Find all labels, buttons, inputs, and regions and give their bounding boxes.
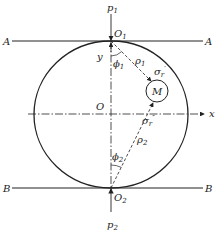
label-y-axis: y [96,51,103,62]
label-phi2: ϕ2 [112,151,124,164]
label-line-b-left: B [2,183,10,194]
label-p1: p1 [107,2,118,15]
label-origin: O [96,101,104,112]
disk-compression-diagram: A A B B O x y M p1 p2 O1 O2 ρ1 ρ2 ϕ1 ϕ2 … [0,0,218,234]
label-sigma-r1: σr′ [154,65,166,79]
label-p2: p2 [107,219,118,232]
label-line-a-right: A [204,36,212,47]
label-line-b-right: B [204,183,212,194]
phi1-arc [111,52,122,56]
label-rho2: ρ2 [136,134,148,147]
label-sigma-r2: σr″ [142,114,155,128]
label-x-axis: x [209,108,215,119]
label-phi1: ϕ1 [113,58,124,71]
label-o1: O1 [114,28,127,41]
label-line-a-left: A [2,36,10,47]
label-o2: O2 [114,192,127,205]
phi2-arc [111,165,121,167]
label-point-m: M [151,86,163,97]
